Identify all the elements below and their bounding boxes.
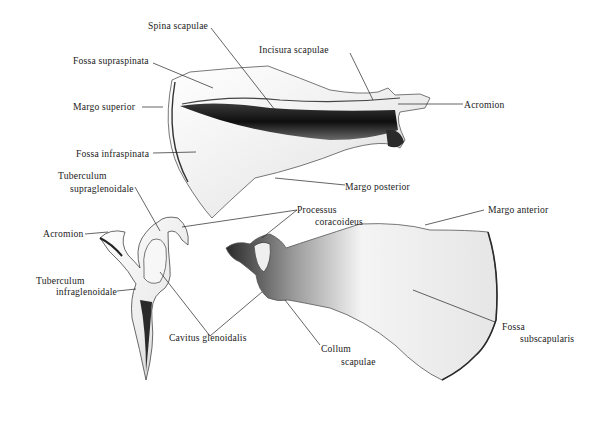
label-acromion-lateral: Acromion xyxy=(43,228,84,240)
label-margo-posterior: Margo posterior xyxy=(345,181,410,193)
label-fossa-subscapularis-2: subscapularis xyxy=(520,333,574,345)
label-tuberculum-infraglenoidale-2: infraglenoidale xyxy=(56,286,117,298)
label-collum-scapulae-1: Collum xyxy=(321,343,351,355)
label-collum-scapulae-2: scapulae xyxy=(341,356,376,368)
label-margo-superior: Margo superior xyxy=(73,101,135,113)
label-fossa-supraspinata: Fossa supraspinata xyxy=(73,55,149,67)
label-incisura-scapulae: Incisura scapulae xyxy=(259,44,329,56)
label-spina-scapulae: Spina scapulae xyxy=(148,20,208,32)
label-acromion-dorsal: Acromion xyxy=(464,99,505,111)
scapula-lateral-view xyxy=(100,217,188,380)
label-fossa-subscapularis-1: Fossa xyxy=(502,321,525,333)
scapula-dorsal-view xyxy=(168,66,430,218)
label-processus-coracoideus-2: coracoideus xyxy=(315,216,363,228)
label-cavitus-glenoidalis: Cavitus glenoidalis xyxy=(169,332,247,344)
label-tuberculum-supraglenoidale-2: supraglenoidale xyxy=(70,183,134,195)
label-processus-coracoideus-1: Processus xyxy=(297,204,337,216)
label-fossa-infraspinata: Fossa infraspinata xyxy=(76,148,149,160)
label-margo-anterior: Margo anterior xyxy=(488,204,548,216)
label-tuberculum-supraglenoidale-1: Tuberculum xyxy=(58,170,107,182)
scapula-illustration: Spina scapulae Incisura scapulae Fossa s… xyxy=(0,0,603,422)
